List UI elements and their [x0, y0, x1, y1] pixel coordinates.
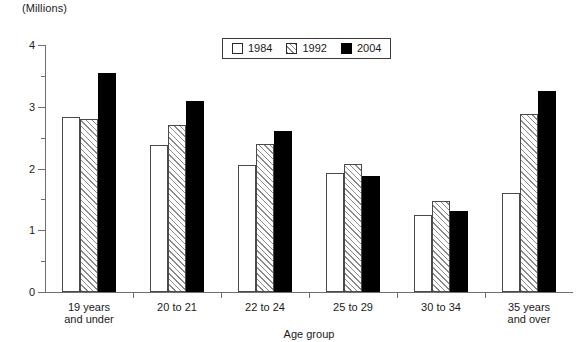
- y-axis-major-tick: [38, 230, 45, 231]
- y-axis-major-tick: [38, 169, 45, 170]
- bar-group-bars: [397, 45, 485, 292]
- plot-area: 01234 19 years and under20 to 2122 to 24…: [45, 45, 573, 292]
- y-axis-major-tick: [38, 107, 45, 108]
- x-axis-group-separator-tick: [309, 292, 310, 298]
- bar-2004[interactable]: [450, 211, 468, 293]
- x-axis-category-label: 30 to 34: [397, 301, 485, 313]
- bar-2004[interactable]: [186, 101, 204, 292]
- bar-group-bars: [45, 45, 133, 292]
- x-axis-category-label: 20 to 21: [133, 301, 221, 313]
- chart-page: (Millions) 1984 1992 2004 01234 19 years…: [0, 0, 588, 342]
- y-axis-major-tick: [38, 292, 45, 293]
- x-axis-category-label: 19 years and under: [45, 301, 133, 325]
- bar-1992[interactable]: [432, 201, 450, 292]
- x-axis-category-label: 22 to 24: [221, 301, 309, 313]
- bar-1984[interactable]: [238, 165, 256, 292]
- y-axis-tick-label: 1: [21, 225, 35, 236]
- bar-2004[interactable]: [362, 176, 380, 292]
- bar-group-bars: [309, 45, 397, 292]
- y-axis-tick-label: 2: [21, 163, 35, 174]
- bar-group: [397, 45, 485, 292]
- bar-2004[interactable]: [274, 131, 292, 292]
- bar-group: [309, 45, 397, 292]
- bar-2004[interactable]: [538, 91, 556, 292]
- bar-group-bars: [133, 45, 221, 292]
- bar-2004[interactable]: [98, 73, 116, 292]
- bar-1992[interactable]: [256, 144, 274, 292]
- bar-1992[interactable]: [168, 125, 186, 292]
- x-axis-group-separator-tick: [397, 292, 398, 298]
- bar-group: [485, 45, 573, 292]
- bar-group: [221, 45, 309, 292]
- bar-1992[interactable]: [344, 164, 362, 292]
- bar-1984[interactable]: [414, 215, 432, 292]
- bar-group: [45, 45, 133, 292]
- y-axis-tick-label: 0: [21, 287, 35, 298]
- bar-1984[interactable]: [502, 193, 520, 292]
- bar-1992[interactable]: [80, 119, 98, 292]
- x-axis-group-separator-tick: [485, 292, 486, 298]
- bar-group-bars: [221, 45, 309, 292]
- bar-1984[interactable]: [326, 173, 344, 292]
- bar-group: [133, 45, 221, 292]
- x-axis-category-label: 35 years and over: [485, 301, 573, 325]
- y-axis-unit-caption: (Millions): [22, 2, 67, 14]
- bar-1984[interactable]: [62, 117, 80, 292]
- bar-1984[interactable]: [150, 145, 168, 292]
- bar-1992[interactable]: [520, 114, 538, 292]
- y-axis-tick-label: 3: [21, 101, 35, 112]
- x-axis-group-separator-tick: [133, 292, 134, 298]
- y-axis-tick-label: 4: [21, 40, 35, 51]
- x-axis-title: Age group: [45, 328, 573, 340]
- y-axis-major-tick: [38, 45, 45, 46]
- x-axis-group-separator-tick: [221, 292, 222, 298]
- bar-group-bars: [485, 45, 573, 292]
- x-axis-category-label: 25 to 29: [309, 301, 397, 313]
